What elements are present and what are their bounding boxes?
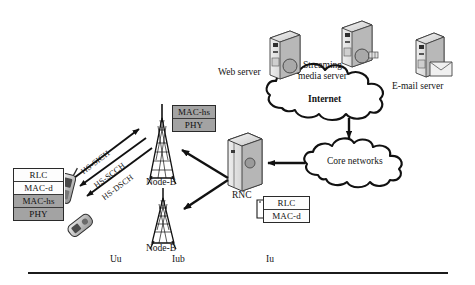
nodeb-lower-label: Node-B (146, 243, 176, 253)
ue-layer-phy: PHY (14, 208, 63, 220)
diagram-canvas (0, 0, 475, 285)
bottom-divider (28, 272, 448, 274)
web-server-icon (270, 31, 300, 79)
iub-upper-arrow (182, 150, 228, 178)
ue-layer-mac-d: MAC-d (14, 182, 63, 195)
rnc-layer-mac-d: MAC-d (264, 210, 309, 222)
rnc-layer-rlc: RLC (264, 197, 309, 210)
email-server-icon (416, 33, 452, 77)
streaming-media-server-label-line1: Streaming (303, 60, 342, 70)
mobile-handset-2 (66, 212, 94, 238)
interface-iu-label: Iu (266, 254, 274, 264)
nodeb-upper-label: Node-B (146, 177, 176, 187)
internet-label: Internet (308, 94, 341, 104)
interface-uu-label: Uu (110, 254, 122, 264)
interface-iub-label: Iub (172, 254, 185, 264)
iub-lower-arrow (184, 180, 228, 209)
ue-layer-rlc: RLC (14, 169, 63, 182)
streaming-media-server-label-line2: media server (298, 71, 347, 81)
rnc-label: RNC (232, 190, 252, 200)
email-server-label: E-mail server (392, 81, 443, 91)
rnc-protocol-stack: RLC MAC-d (263, 196, 310, 223)
web-server-label: Web server (218, 67, 261, 77)
nodeb-protocol-stack: MAC-hs PHY (172, 105, 216, 132)
core-networks-label: Core networks (327, 156, 383, 166)
streaming-media-server-icon (342, 21, 378, 67)
nodeb-tower-lower (150, 188, 176, 249)
nodeb-layer-phy: PHY (173, 119, 215, 131)
nodeb-layer-mac-hs: MAC-hs (173, 106, 215, 119)
rnc-icon (228, 133, 262, 191)
ue-protocol-stack: RLC MAC-d MAC-hs PHY (13, 168, 64, 221)
ue-layer-mac-hs: MAC-hs (14, 195, 63, 208)
